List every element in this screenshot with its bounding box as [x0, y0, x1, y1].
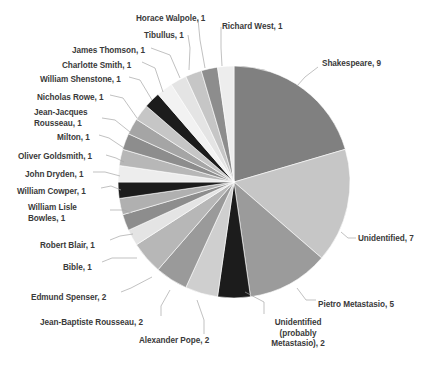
- data-label-line: Tibullus, 1: [144, 31, 184, 42]
- data-label-pietro-metastasio: Pietro Metastasio, 5: [318, 300, 394, 311]
- leader-line-james-thomson: [151, 48, 180, 78]
- data-label-milton: Milton, 1: [57, 133, 90, 144]
- data-label-line: Unidentified, 7: [358, 234, 414, 245]
- data-label-alexander-pope: Alexander Pope, 2: [139, 336, 209, 347]
- data-label-charlotte-smith: Charlotte Smith, 1: [62, 61, 131, 72]
- data-label-william-lisle-bowles: William LisleBowles, 1: [28, 203, 77, 224]
- data-label-tibullus: Tibullus, 1: [144, 31, 184, 42]
- leader-line-jean-baptiste-rousseau: [161, 290, 170, 316]
- data-label-line: William Lisle: [28, 203, 77, 214]
- leader-line-milton: [99, 135, 124, 148]
- data-label-line: Richard West, 1: [222, 22, 283, 33]
- data-label-jean-baptiste-rousseau: Jean-Baptiste Rousseau, 2: [40, 318, 143, 329]
- leader-line-unidentified: [341, 232, 356, 238]
- data-label-line: Robert Blair, 1: [40, 241, 95, 252]
- leader-line-william-shenstone: [129, 77, 152, 100]
- data-label-bible: Bible, 1: [63, 263, 92, 274]
- data-label-horace-walpole: Horace Walpole, 1: [136, 14, 205, 25]
- data-label-line: Edmund Spenser, 2: [31, 293, 106, 304]
- leader-line-nicholas-rowe: [110, 95, 137, 118]
- leader-line-shakespeare: [297, 67, 318, 86]
- data-label-line: Charlotte Smith, 1: [62, 61, 131, 72]
- data-label-line: Alexander Pope, 2: [139, 336, 209, 347]
- data-label-line: Bible, 1: [63, 263, 92, 274]
- pie-chart: Shakespeare, 9Unidentified, 7Pietro Meta…: [0, 0, 443, 378]
- data-label-nicholas-rowe: Nicholas Rowe, 1: [37, 93, 104, 104]
- leader-line-edmund-spenser: [121, 277, 152, 292]
- data-label-line: Bowles, 1: [28, 214, 77, 225]
- data-label-line: William Shenstone, 1: [40, 75, 121, 86]
- leader-line-jean-jacques-rousseau: [102, 118, 130, 132]
- data-label-line: James Thomson, 1: [72, 46, 145, 57]
- data-label-oliver-goldsmith: Oliver Goldsmith, 1: [18, 152, 92, 163]
- data-label-unidentified: Unidentified, 7: [358, 234, 414, 245]
- leader-line-charlotte-smith: [142, 62, 163, 92]
- data-label-line: Jean-Baptiste Rousseau, 2: [40, 318, 143, 329]
- data-label-line: Metastasio), 2: [233, 339, 363, 350]
- leader-line-richard-west: [221, 27, 222, 66]
- data-label-line: Pietro Metastasio, 5: [318, 300, 394, 311]
- data-label-unidentified-probably-metastasio: Unidentified(probablyMetastasio), 2: [233, 318, 363, 350]
- data-label-line: Milton, 1: [57, 133, 90, 144]
- data-label-line: Jean-Jacques: [34, 108, 88, 119]
- data-label-line: Rousseau, 1: [34, 119, 88, 130]
- data-label-line: Oliver Goldsmith, 1: [18, 152, 92, 163]
- data-label-line: William Cowper, 1: [17, 187, 86, 198]
- leader-line-robert-blair: [110, 234, 133, 240]
- leader-line-alexander-pope: [197, 300, 204, 334]
- data-label-robert-blair: Robert Blair, 1: [40, 241, 95, 252]
- data-label-line: Nicholas Rowe, 1: [37, 93, 104, 104]
- leader-line-john-dryden: [93, 172, 120, 176]
- data-label-line: Horace Walpole, 1: [136, 14, 205, 25]
- pie-slices: [118, 66, 350, 298]
- leader-line-horace-walpole: [198, 19, 205, 68]
- leader-line-pietro-metastasio: [297, 288, 316, 300]
- data-label-jean-jacques-rousseau: Jean-JacquesRousseau, 1: [34, 108, 88, 129]
- data-label-line: John Dryden, 1: [25, 170, 83, 181]
- data-label-william-cowper: William Cowper, 1: [17, 187, 86, 198]
- data-label-william-shenstone: William Shenstone, 1: [40, 75, 121, 86]
- leader-line-tibullus: [188, 35, 190, 70]
- data-label-john-dryden: John Dryden, 1: [25, 170, 83, 181]
- data-label-line: (probably: [233, 329, 363, 340]
- leader-line-bible: [102, 258, 137, 262]
- data-label-richard-west: Richard West, 1: [222, 22, 283, 33]
- data-label-edmund-spenser: Edmund Spenser, 2: [31, 293, 106, 304]
- data-label-line: Shakespeare, 9: [322, 59, 381, 70]
- data-label-line: Unidentified: [233, 318, 363, 329]
- data-label-james-thomson: James Thomson, 1: [72, 46, 145, 57]
- data-label-shakespeare: Shakespeare, 9: [322, 59, 381, 70]
